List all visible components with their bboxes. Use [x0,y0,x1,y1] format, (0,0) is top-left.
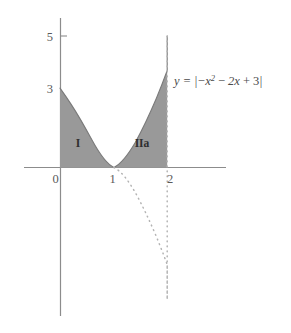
x-tick-label-0: 0 [52,172,58,186]
equation-plus: + [243,74,250,88]
equation-exponent: 2 [211,73,216,83]
equation-annotation: y=|−x2−2x+3| [172,73,262,88]
equation-equals: = [184,74,191,88]
absolute-value-parabola-chart: 5 3 0 1 2 I IIa y=|−x2−2x+3| [0,0,291,333]
equation-minus: − [198,74,205,88]
dotted-negative-branch [114,168,167,300]
x-tick-label-1: 1 [109,172,115,186]
equation-close-bar: | [260,74,263,88]
y-tick-label-3: 3 [47,82,53,96]
region-label-IIa: IIa [135,137,150,149]
equation-2x: 2x [228,74,240,88]
x-tick-label-2: 2 [167,172,173,186]
y-tick-label-5: 5 [47,30,53,44]
region-label-I: I [76,137,81,149]
figure-container: 5 3 0 1 2 I IIa y=|−x2−2x+3| [0,0,291,333]
equation-three: 3 [253,74,259,88]
svg-text:y=|−x2−2x+3|: y=|−x2−2x+3| [172,73,262,88]
equation-lhs: y [172,74,180,88]
equation-minus-two: − [218,74,225,88]
